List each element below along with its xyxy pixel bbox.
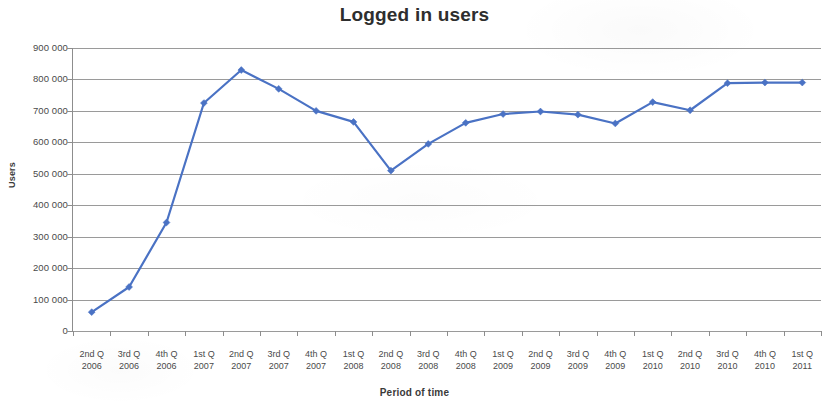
- x-tick-quarter: 2nd Q: [671, 348, 708, 360]
- x-axis-tick-mark: [709, 331, 710, 336]
- data-point-marker: [500, 111, 507, 118]
- x-tick-quarter: 1st Q: [185, 348, 222, 360]
- x-axis-tick-mark: [73, 331, 74, 336]
- x-tick-quarter: 4th Q: [447, 348, 484, 360]
- x-axis-tick-mark: [410, 331, 411, 336]
- x-tick-quarter: 3rd Q: [559, 348, 596, 360]
- y-axis-tick-label: 100 000: [2, 294, 68, 305]
- x-axis-tick-label: 1st Q2010: [634, 348, 671, 372]
- x-axis-tick-mark: [297, 331, 298, 336]
- data-point-marker: [762, 79, 769, 86]
- y-axis-tick-label: 900 000: [2, 42, 68, 53]
- data-point-marker: [537, 108, 544, 115]
- x-tick-year: 2008: [410, 360, 447, 372]
- x-tick-quarter: 4th Q: [148, 348, 185, 360]
- x-tick-year: 2007: [297, 360, 334, 372]
- x-axis-title: Period of time: [0, 387, 829, 398]
- x-axis-tick-mark: [784, 331, 785, 336]
- x-tick-quarter: 3rd Q: [709, 348, 746, 360]
- x-tick-quarter: 3rd Q: [260, 348, 297, 360]
- x-axis-tick-label: 3rd Q2009: [559, 348, 596, 372]
- x-axis-tick-mark: [597, 331, 598, 336]
- x-axis-tick-label: 4th Q2008: [447, 348, 484, 372]
- x-tick-year: 2006: [73, 360, 110, 372]
- x-axis-tick-label: 3rd Q2007: [260, 348, 297, 372]
- x-axis-tick-label: 2nd Q2006: [73, 348, 110, 372]
- x-tick-quarter: 1st Q: [484, 348, 521, 360]
- x-axis-tick-label: 1st Q2007: [185, 348, 222, 372]
- x-tick-quarter: 3rd Q: [410, 348, 447, 360]
- x-axis-tick-mark: [335, 331, 336, 336]
- x-tick-quarter: 3rd Q: [110, 348, 147, 360]
- x-axis-tick-mark: [260, 331, 261, 336]
- x-axis-tick-mark: [522, 331, 523, 336]
- line-chart: Logged in users Users 900 000800 000700 …: [0, 0, 829, 406]
- x-tick-quarter: 2nd Q: [223, 348, 260, 360]
- x-tick-quarter: 2nd Q: [372, 348, 409, 360]
- plot-area: [73, 48, 821, 331]
- x-tick-quarter: 1st Q: [634, 348, 671, 360]
- x-tick-year: 2009: [597, 360, 634, 372]
- x-tick-quarter: 2nd Q: [73, 348, 110, 360]
- x-axis-tick-label: 1st Q2011: [784, 348, 821, 372]
- data-series-logged-in-users: [73, 48, 821, 331]
- x-axis-tick-mark: [185, 331, 186, 336]
- x-tick-year: 2010: [709, 360, 746, 372]
- x-axis-tick-mark: [148, 331, 149, 336]
- chart-title: Logged in users: [0, 4, 829, 26]
- x-axis-tick-label: 2nd Q2007: [223, 348, 260, 372]
- x-axis-tick-label: 4th Q2006: [148, 348, 185, 372]
- x-tick-year: 2007: [223, 360, 260, 372]
- x-tick-quarter: 4th Q: [597, 348, 634, 360]
- x-tick-year: 2009: [484, 360, 521, 372]
- x-axis-tick-mark: [746, 331, 747, 336]
- x-tick-year: 2010: [634, 360, 671, 372]
- y-axis-tick-label: 800 000: [2, 73, 68, 84]
- x-axis-tick-label: 3rd Q2006: [110, 348, 147, 372]
- x-axis-tick-mark: [447, 331, 448, 336]
- x-tick-quarter: 4th Q: [746, 348, 783, 360]
- x-tick-quarter: 1st Q: [335, 348, 372, 360]
- y-axis-tick-label: 200 000: [2, 262, 68, 273]
- x-tick-quarter: 2nd Q: [522, 348, 559, 360]
- x-axis-tick-labels: 2nd Q20063rd Q20064th Q20061st Q20072nd …: [73, 334, 821, 374]
- y-axis-tick-label: 300 000: [2, 231, 68, 242]
- x-axis-tick-label: 1st Q2008: [335, 348, 372, 372]
- x-axis-tick-mark: [821, 331, 822, 336]
- x-tick-year: 2010: [671, 360, 708, 372]
- x-axis-tick-mark: [559, 331, 560, 336]
- x-axis-tick-label: 1st Q2009: [484, 348, 521, 372]
- x-tick-year: 2007: [260, 360, 297, 372]
- x-tick-year: 2011: [784, 360, 821, 372]
- x-tick-year: 2008: [335, 360, 372, 372]
- y-axis-tick-label: 600 000: [2, 136, 68, 147]
- x-axis-tick-label: 2nd Q2009: [522, 348, 559, 372]
- y-axis-tick-label: 400 000: [2, 199, 68, 210]
- x-tick-year: 2008: [447, 360, 484, 372]
- x-axis-tick-mark: [223, 331, 224, 336]
- x-axis-tick-label: 4th Q2009: [597, 348, 634, 372]
- x-axis-tick-label: 4th Q2007: [297, 348, 334, 372]
- x-axis-tick-mark: [372, 331, 373, 336]
- x-axis-tick-label: 2nd Q2008: [372, 348, 409, 372]
- data-point-marker: [575, 111, 582, 118]
- x-tick-quarter: 1st Q: [784, 348, 821, 360]
- x-tick-year: 2007: [185, 360, 222, 372]
- x-tick-year: 2009: [559, 360, 596, 372]
- x-axis-tick-label: 4th Q2010: [746, 348, 783, 372]
- x-axis-tick-label: 3rd Q2010: [709, 348, 746, 372]
- x-tick-year: 2006: [110, 360, 147, 372]
- data-point-marker: [799, 79, 806, 86]
- x-tick-year: 2010: [746, 360, 783, 372]
- y-axis-tick-labels: 900 000800 000700 000600 000500 000400 0…: [0, 0, 68, 406]
- y-axis-tick-label: 700 000: [2, 105, 68, 116]
- x-axis-tick-mark: [634, 331, 635, 336]
- x-tick-year: 2006: [148, 360, 185, 372]
- x-tick-year: 2008: [372, 360, 409, 372]
- x-tick-quarter: 4th Q: [297, 348, 334, 360]
- x-axis-tick-mark: [671, 331, 672, 336]
- y-axis-tick-label: 0: [2, 325, 68, 336]
- x-axis-tick-label: 2nd Q2010: [671, 348, 708, 372]
- y-axis-tick-label: 500 000: [2, 168, 68, 179]
- x-axis-tick-mark: [110, 331, 111, 336]
